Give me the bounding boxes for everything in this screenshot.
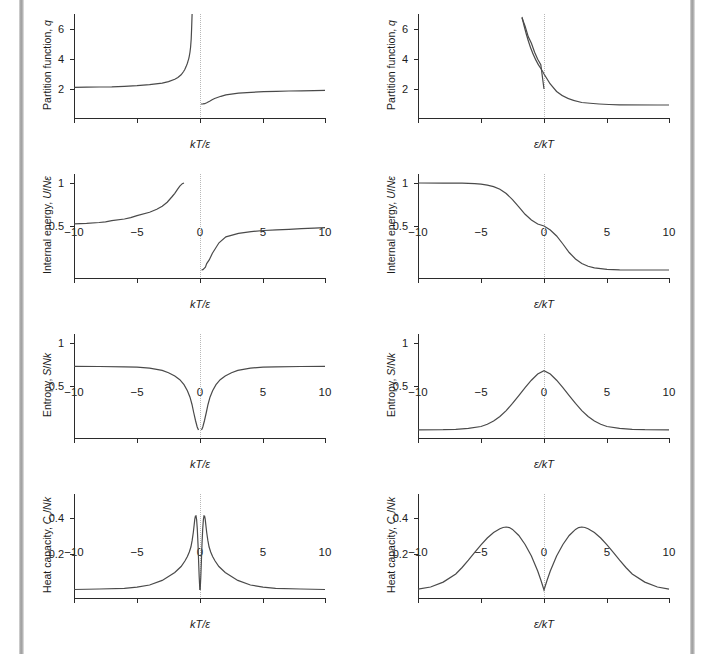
x-axis-label: kT/ε	[74, 458, 326, 470]
panel-internal-energy-vs-kt-eps: Internal energy, U/Nε 0.5 1 −10 −5 0 5 1…	[28, 166, 358, 326]
x-axis-label: ε/kT	[418, 458, 670, 470]
x-axis-label: kT/ε	[74, 618, 326, 630]
data-curve	[418, 334, 670, 439]
data-curve	[74, 334, 326, 439]
x-axis-label: ε/kT	[418, 298, 670, 310]
y-axis-label: Heat capacity, Cv/Nk	[40, 486, 54, 604]
data-curve	[74, 14, 326, 119]
y-axis-label: Partition function, q	[40, 6, 54, 124]
data-curve	[418, 174, 670, 279]
panel-partition-function-vs-kt-eps: Partition function, q 2 4 6 −10 −5 0 5 1…	[28, 6, 358, 166]
y-axis-label: Heat capacity, Cv/Nk	[384, 486, 398, 604]
data-curve	[418, 14, 670, 119]
panel-heat-capacity-vs-eps-kt: Heat capacity, Cv/Nk 0.2 0.4 −10 −5 0 5 …	[372, 486, 702, 646]
panel-entropy-vs-eps-kt: Entropy, S/Nk 0.5 1 −10 −5 0 5 10 ε/kT	[372, 326, 702, 486]
plot-area: 0.2 0.4 −10 −5 0 5 10	[74, 494, 326, 599]
panel-internal-energy-vs-eps-kt: Internal energy, U/Nε 0.5 1 −10 −5 0 5 1…	[372, 166, 702, 326]
x-axis-label: ε/kT	[418, 138, 670, 150]
x-axis-label: ε/kT	[418, 618, 670, 630]
data-curve	[74, 494, 326, 599]
plot-area: 0.5 1 −10 −5 0 5 10	[418, 334, 670, 439]
plot-area: 0.5 1 −10 −5 0 5 10	[74, 174, 326, 279]
plot-area: 0.5 1 −10 −5 0 5 10	[74, 334, 326, 439]
plot-area: 2 4 6 −10 −5 0 5 10	[418, 14, 670, 119]
data-curve	[74, 174, 326, 279]
panel-heat-capacity-vs-kt-eps: Heat capacity, Cv/Nk 0.2 0.4 −10 −5 0 5 …	[28, 486, 358, 646]
data-curve	[418, 494, 670, 599]
y-axis-label: Partition function, q	[384, 6, 398, 124]
x-axis-label: kT/ε	[74, 138, 326, 150]
plot-area: 2 4 6 −10 −5 0 5 10	[74, 14, 326, 119]
x-axis-label: kT/ε	[74, 298, 326, 310]
plot-area: 0.5 1 −10 −5 0 5 10	[418, 174, 670, 279]
panel-partition-function-vs-eps-kt: Partition function, q 2 4 6 −10 −5 0 5 1…	[372, 6, 702, 166]
figure-panel-grid: Partition function, q 2 4 6 −10 −5 0 5 1…	[0, 0, 707, 654]
panel-entropy-vs-kt-eps: Entropy, S/Nk 0.5 1 −10 −5 0 5 10 kT/ε	[28, 326, 358, 486]
plot-area: 0.2 0.4 −10 −5 0 5 10	[418, 494, 670, 599]
